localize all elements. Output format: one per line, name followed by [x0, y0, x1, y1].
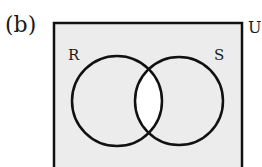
set-r-label: R	[68, 48, 79, 63]
set-s-label: S	[214, 48, 224, 63]
venn-diagram	[0, 0, 262, 167]
